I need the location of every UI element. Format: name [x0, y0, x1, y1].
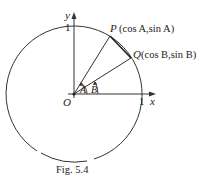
- angle-B-label: B: [91, 84, 97, 95]
- origin-label: O: [63, 96, 71, 108]
- origin-point: [72, 92, 75, 95]
- figure-caption: Fig. 5.4: [56, 164, 89, 175]
- point-Q-coords: (cos B,sin B): [141, 49, 197, 61]
- angle-A-label: A: [79, 84, 87, 95]
- point-P-name: P: [109, 22, 117, 34]
- point-P-coords: (cos A,sin A): [119, 23, 175, 35]
- point-Q-name: Q: [133, 48, 141, 60]
- y-tick-label: 1: [65, 21, 71, 33]
- x-tick-label: 1: [139, 95, 145, 107]
- chord-PQ: [110, 36, 131, 58]
- y-axis-arrow-icon: [72, 12, 77, 19]
- x-axis-label: x: [149, 95, 155, 107]
- unit-circle-diagram: y 1 x 1 O A B P (cos A,sin A) Q (cos B,s…: [0, 0, 202, 177]
- y-axis-label: y: [64, 9, 70, 21]
